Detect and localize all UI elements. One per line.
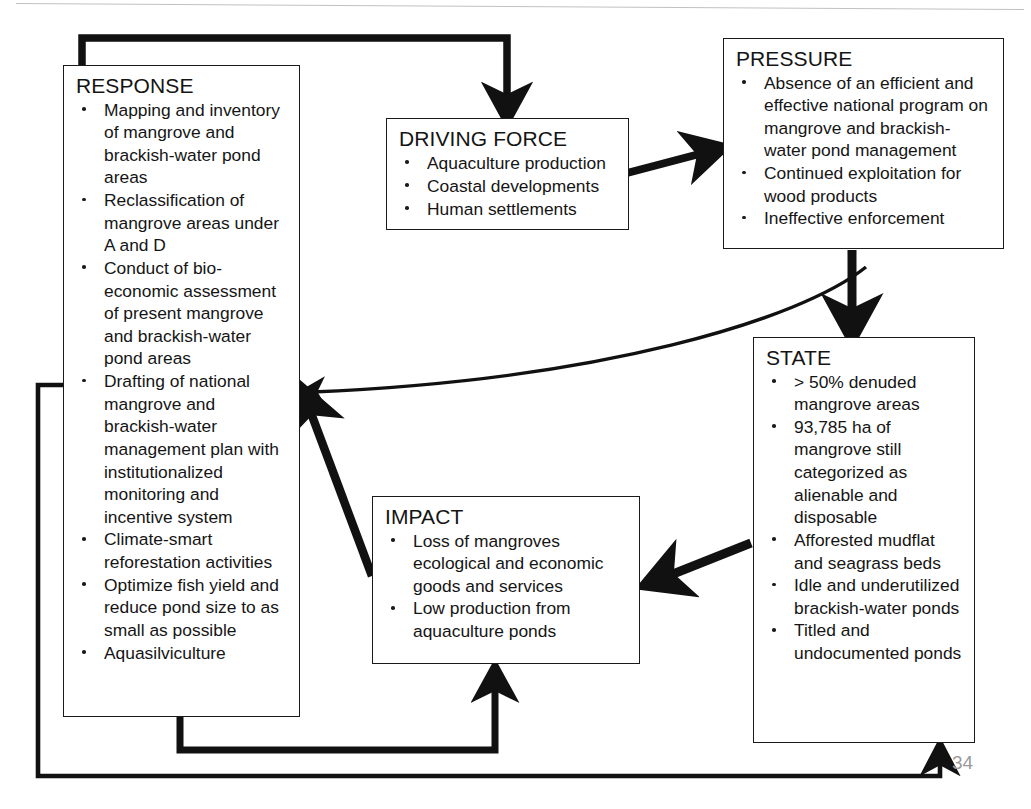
list-item-label: Low production from aquaculture ponds [413, 598, 571, 641]
node-state[interactable]: STATE > 50% denuded mangrove areas 93,78… [753, 337, 975, 743]
bullet-dot-icon [742, 80, 746, 84]
bullet-dot-icon [82, 650, 86, 654]
node-driving-force[interactable]: DRIVING FORCE Aquaculture production Coa… [386, 118, 629, 230]
bullet-dot-icon [405, 206, 409, 210]
bullet-dot-icon [772, 583, 776, 587]
node-pressure-title: PRESSURE [736, 47, 993, 71]
list-item-label: 93,785 ha of mangrove still categorized … [794, 417, 907, 528]
list-item-label: Absence of an efficient and effective na… [764, 73, 988, 161]
connector-impact-to-response [308, 405, 372, 576]
bullet-dot-icon [391, 606, 395, 610]
list-item: Conduct of bio-economic assessment of pr… [74, 257, 289, 370]
bullet-dot-icon [742, 216, 746, 220]
list-item-label: Drafting of national mangrove and bracki… [104, 371, 279, 527]
bullet-dot-icon [772, 424, 776, 428]
list-item: Optimize fish yield and reduce pond size… [74, 574, 289, 642]
list-item: Aquaculture production [397, 152, 618, 175]
list-item: Ineffective enforcement [734, 207, 993, 230]
list-item: Low production from aquaculture ponds [383, 597, 629, 642]
list-item-label: Climate-smart reforestation activities [104, 529, 272, 572]
bullet-dot-icon [82, 107, 86, 111]
node-impact-bullet-list: Loss of mangroves ecological and economi… [383, 530, 629, 643]
node-driving-force-title: DRIVING FORCE [399, 127, 618, 151]
bullet-dot-icon [405, 160, 409, 164]
list-item-label: Loss of mangroves ecological and economi… [413, 531, 603, 596]
list-item: > 50% denuded mangrove areas [764, 371, 964, 416]
list-item-label: Mapping and inventory of mangrove and br… [104, 100, 280, 188]
list-item-label: Ineffective enforcement [764, 208, 944, 228]
list-item: Human settlements [397, 198, 618, 221]
node-state-bullet-list: > 50% denuded mangrove areas 93,785 ha o… [764, 371, 964, 665]
list-item: Continued exploitation for wood products [734, 162, 993, 207]
node-response[interactable]: RESPONSE Mapping and inventory of mangro… [63, 65, 300, 717]
node-pressure[interactable]: PRESSURE Absence of an efficient and eff… [723, 38, 1004, 249]
list-item: Drafting of national mangrove and bracki… [74, 370, 289, 528]
bullet-dot-icon [82, 198, 86, 202]
connector-state-to-impact [663, 543, 751, 578]
list-item-label: Aquaculture production [427, 153, 606, 173]
node-pressure-bullet-list: Absence of an efficient and effective na… [734, 72, 993, 230]
list-item-label: Aquasilviculture [104, 643, 226, 663]
list-item: Aquasilviculture [74, 642, 289, 665]
list-item-label: > 50% denuded mangrove areas [794, 372, 920, 415]
bullet-dot-icon [82, 265, 86, 269]
node-response-bullet-list: Mapping and inventory of mangrove and br… [74, 99, 289, 665]
bullet-dot-icon [772, 379, 776, 383]
list-item-label: Continued exploitation for wood products [764, 163, 961, 206]
list-item: Afforested mudflat and seagrass beds [764, 529, 964, 574]
bullet-dot-icon [772, 628, 776, 632]
connector-driving-force-to-pressure [627, 152, 707, 173]
list-item-label: Reclassification of mangrove areas under… [104, 190, 279, 255]
diagram-page: RESPONSE Mapping and inventory of mangro… [0, 0, 1031, 809]
node-impact[interactable]: IMPACT Loss of mangroves ecological and … [372, 496, 640, 664]
list-item: Climate-smart reforestation activities [74, 528, 289, 573]
list-item-label: Afforested mudflat and seagrass beds [794, 530, 941, 573]
node-driving-force-bullet-list: Aquaculture production Coastal developme… [397, 152, 618, 221]
bullet-dot-icon [742, 171, 746, 175]
list-item: Mapping and inventory of mangrove and br… [74, 99, 289, 190]
bullet-dot-icon [82, 379, 86, 383]
list-item: Idle and underutilized brackish-water po… [764, 574, 964, 619]
list-item: Coastal developments [397, 175, 618, 198]
scan-artifact-line [16, 3, 1024, 11]
node-impact-title: IMPACT [385, 505, 629, 529]
bullet-dot-icon [405, 183, 409, 187]
list-item: Reclassification of mangrove areas under… [74, 189, 289, 257]
bullet-dot-icon [391, 538, 395, 542]
page-number: 34 [952, 752, 973, 774]
list-item-label: Conduct of bio-economic assessment of pr… [104, 258, 276, 369]
bullet-dot-icon [82, 537, 86, 541]
bullet-dot-icon [82, 582, 86, 586]
list-item: 93,785 ha of mangrove still categorized … [764, 416, 964, 529]
list-item-label: Titled and undocumented ponds [794, 620, 961, 663]
list-item: Absence of an efficient and effective na… [734, 72, 993, 163]
list-item-label: Idle and underutilized brackish-water po… [794, 575, 959, 618]
list-item-label: Optimize fish yield and reduce pond size… [104, 575, 279, 640]
list-item: Loss of mangroves ecological and economi… [383, 530, 629, 598]
bullet-dot-icon [772, 537, 776, 541]
node-state-title: STATE [766, 346, 964, 370]
list-item-label: Coastal developments [427, 176, 599, 196]
list-item: Titled and undocumented ponds [764, 619, 964, 664]
list-item-label: Human settlements [427, 199, 577, 219]
node-response-title: RESPONSE [76, 74, 289, 98]
